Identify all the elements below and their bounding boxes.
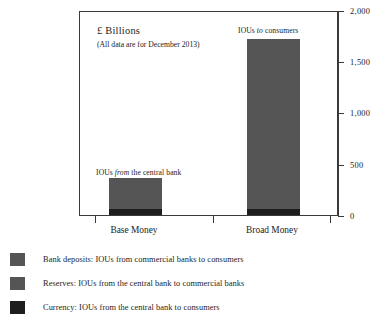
legend-label-currency: Currency: IOUs from the central bank to …: [43, 303, 220, 312]
legend-swatch-bank-deposits: [10, 253, 25, 266]
caption-note: (All data are for December 2013): [97, 40, 200, 50]
annotation-broad-pre: IOUs: [238, 26, 257, 35]
x-tick-middle: [213, 216, 214, 223]
legend-swatch-currency: [10, 301, 25, 314]
legend-item-bank-deposits[interactable]: Bank deposits: IOUs from commercial bank…: [10, 250, 387, 269]
y-tick-label-2000: 2,000: [350, 7, 370, 16]
x-label-broad-money: Broad Money: [246, 225, 298, 235]
x-tick-left: [95, 216, 96, 223]
money-supply-bar-chart: £ Billions (All data are for December 20…: [0, 0, 387, 331]
y-tick-500: [338, 165, 344, 166]
annotation-base-post: the central bank: [129, 168, 181, 177]
bar-segment-deposits-broad: [247, 39, 300, 209]
x-label-base-money: Base Money: [110, 225, 157, 235]
bar-segment-currency-broad: [247, 209, 300, 215]
y-tick-label-1000: 1,000: [350, 109, 370, 118]
legend-label-bank-deposits: Bank deposits: IOUs from commercial bank…: [43, 255, 244, 264]
annotation-broad-post: consumers: [263, 26, 298, 35]
legend-swatch-reserves: [10, 277, 25, 290]
y-tick-label-1500: 1,500: [350, 58, 370, 67]
bar-segment-currency-base: [109, 209, 162, 215]
caption-units: £ Billions: [97, 24, 200, 38]
y-tick-label-500: 500: [350, 161, 363, 170]
y-tick-1500: [338, 62, 344, 63]
bar-base-money[interactable]: [109, 178, 162, 215]
y-tick-label-0: 0: [350, 212, 355, 221]
annotation-broad-money: IOUs to consumers: [238, 26, 298, 35]
annotation-base-emphasis: from: [115, 168, 129, 177]
y-tick-0: [338, 216, 344, 217]
x-tick-right: [330, 216, 331, 223]
chart-legend: Bank deposits: IOUs from commercial bank…: [10, 250, 387, 322]
legend-item-reserves[interactable]: Reserves: IOUs from the central bank to …: [10, 274, 387, 293]
annotation-base-pre: IOUs: [96, 168, 115, 177]
bar-broad-money[interactable]: [247, 39, 300, 215]
legend-item-currency[interactable]: Currency: IOUs from the central bank to …: [10, 298, 387, 317]
y-tick-2000: [338, 11, 344, 12]
legend-label-reserves: Reserves: IOUs from the central bank to …: [43, 279, 244, 288]
bar-segment-reserves-base: [109, 178, 162, 209]
y-tick-1000: [338, 113, 344, 114]
chart-caption: £ Billions (All data are for December 20…: [97, 24, 200, 51]
annotation-base-money: IOUs from the central bank: [96, 168, 181, 177]
